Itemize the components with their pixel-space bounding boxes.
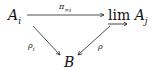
label-pi-infinity-i: π∞i [59,3,71,14]
node-a-j-sub: j [145,16,148,26]
lim-operator: lim [108,8,130,22]
node-a-i-sub: i [18,16,21,26]
node-lim-a-j: lim Aj [108,8,148,28]
direct-limit-arrow-icon [108,22,128,26]
label-rho-right: ρ [98,42,103,51]
label-rho-left-sub: i [33,45,35,52]
node-b-base: B [64,54,74,70]
node-b: B [64,55,74,69]
arrow-right [78,26,110,55]
label-rho-i: ρi [28,42,35,53]
label-rho: ρ [98,43,103,51]
arrow-left [33,26,60,55]
node-a-j-base: A [135,7,145,23]
label-pi-sub: ∞i [64,6,71,13]
node-a-i-base: A [8,7,18,23]
node-a-i: Ai [8,8,21,28]
lim-text: lim [108,7,130,23]
